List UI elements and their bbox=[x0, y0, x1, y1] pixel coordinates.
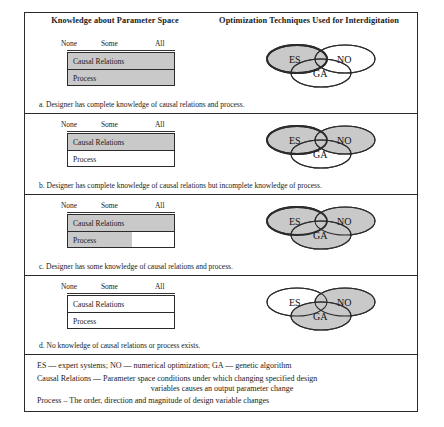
header-optimization-techniques: Optimization Techniques Used for Interdi… bbox=[203, 16, 415, 25]
case-caption-a: a. Designer has complete knowledge of ca… bbox=[39, 100, 245, 109]
venn-label-ga: GA bbox=[313, 230, 328, 241]
bar-label-process: Process bbox=[73, 154, 96, 163]
venn-label-no: NO bbox=[337, 216, 351, 227]
venn-wrapper-a: ES NO GA bbox=[257, 35, 385, 95]
legend-line-abbreviations: ES — expert systems; NO — numerical opti… bbox=[37, 361, 407, 371]
knowledge-bars-b: Causal Relations Process bbox=[67, 133, 175, 167]
venn-wrapper-d: ES NO GA bbox=[257, 278, 385, 338]
venn-diagram-case-c: ES NO GA bbox=[257, 197, 385, 253]
venn-diagram-case-a: ES NO GA bbox=[257, 35, 385, 91]
scale-label-some: Some bbox=[101, 201, 118, 210]
bar-causal-relations-d: Causal Relations bbox=[68, 296, 174, 312]
bar-label-causal: Causal Relations bbox=[73, 300, 124, 309]
knowledge-scale-c: None Some All bbox=[67, 201, 175, 213]
knowledge-bars-c: Causal Relations Process bbox=[67, 214, 175, 248]
bar-label-causal: Causal Relations bbox=[73, 57, 124, 66]
venn-label-es: ES bbox=[289, 135, 301, 146]
case-caption-d: d. No knowledge of causal relations or p… bbox=[39, 341, 200, 350]
venn-wrapper-b: ES NO GA bbox=[257, 116, 385, 176]
knowledge-scale-a: None Some All bbox=[67, 39, 175, 51]
case-row-d: None Some All Causal Relations Process bbox=[25, 276, 417, 354]
scale-label-some: Some bbox=[101, 120, 118, 129]
case-caption-b: b. Designer has complete knowledge of ca… bbox=[39, 181, 322, 190]
scale-label-all: All bbox=[155, 282, 164, 291]
column-headers: Knowledge about Parameter Space Optimiza… bbox=[25, 13, 417, 33]
case-row-c: None Some All Causal Relations Process bbox=[25, 195, 417, 275]
knowledge-scale-d: None Some All bbox=[67, 282, 175, 294]
knowledge-bars-a: Causal Relations Process bbox=[67, 52, 175, 86]
venn-label-es: ES bbox=[289, 216, 301, 227]
case-row-b: None Some All Causal Relations Process bbox=[25, 114, 417, 194]
case-row-a: None Some All Causal Relations Process bbox=[25, 33, 417, 113]
scale-label-none: None bbox=[61, 282, 77, 291]
venn-label-no: NO bbox=[337, 54, 351, 65]
knowledge-scale-b: None Some All bbox=[67, 120, 175, 132]
legend-line-causal-relations: Causal Relations — Parameter space condi… bbox=[37, 374, 407, 394]
knowledge-bars-d: Causal Relations Process bbox=[67, 295, 175, 329]
figure-container: Knowledge about Parameter Space Optimiza… bbox=[24, 12, 418, 412]
scale-label-none: None bbox=[61, 120, 77, 129]
parameter-space-widget-b: None Some All Causal Relations Process bbox=[67, 120, 175, 167]
legend-causal-text-cont: variables causes an output parameter cha… bbox=[37, 384, 407, 394]
scale-label-all: All bbox=[155, 120, 164, 129]
bar-label-process: Process bbox=[73, 316, 96, 325]
bar-process-d: Process bbox=[68, 312, 174, 328]
parameter-space-widget-c: None Some All Causal Relations Process bbox=[67, 201, 175, 248]
bar-process-b: Process bbox=[68, 150, 174, 166]
bar-process-c: Process bbox=[68, 231, 174, 247]
venn-diagram-case-b: ES NO GA bbox=[257, 116, 385, 172]
bar-causal-relations-b: Causal Relations bbox=[68, 134, 174, 150]
venn-diagram-case-d: ES NO GA bbox=[257, 278, 385, 334]
legend-causal-text: Causal Relations — Parameter space condi… bbox=[37, 374, 317, 383]
venn-label-ga: GA bbox=[313, 149, 328, 160]
scale-label-all: All bbox=[155, 39, 164, 48]
venn-label-no: NO bbox=[337, 297, 351, 308]
scale-label-none: None bbox=[61, 39, 77, 48]
scale-label-some: Some bbox=[101, 39, 118, 48]
scale-label-all: All bbox=[155, 201, 164, 210]
venn-label-es: ES bbox=[289, 297, 301, 308]
scale-label-none: None bbox=[61, 201, 77, 210]
parameter-space-widget-d: None Some All Causal Relations Process bbox=[67, 282, 175, 329]
bar-label-process: Process bbox=[73, 235, 96, 244]
case-caption-c: c. Designer has some knowledge of causal… bbox=[39, 262, 233, 271]
header-knowledge-parameter-space: Knowledge about Parameter Space bbox=[31, 16, 199, 25]
venn-label-ga: GA bbox=[313, 311, 328, 322]
parameter-space-widget-a: None Some All Causal Relations Process bbox=[67, 39, 175, 86]
bar-process-a: Process bbox=[68, 69, 174, 85]
venn-label-no: NO bbox=[337, 135, 351, 146]
scale-label-some: Some bbox=[101, 282, 118, 291]
bar-causal-relations-c: Causal Relations bbox=[68, 215, 174, 231]
bar-causal-relations-a: Causal Relations bbox=[68, 53, 174, 69]
bar-label-causal: Causal Relations bbox=[73, 138, 124, 147]
legend-block: ES — expert systems; NO — numerical opti… bbox=[25, 355, 417, 411]
venn-label-ga: GA bbox=[313, 68, 328, 79]
bar-label-process: Process bbox=[73, 73, 96, 82]
venn-wrapper-c: ES NO GA bbox=[257, 197, 385, 257]
venn-label-es: ES bbox=[289, 54, 301, 65]
bar-label-causal: Causal Relations bbox=[73, 219, 124, 228]
legend-line-process: Process – The order, direction and magni… bbox=[37, 396, 407, 406]
case-list: None Some All Causal Relations Process bbox=[25, 33, 417, 354]
